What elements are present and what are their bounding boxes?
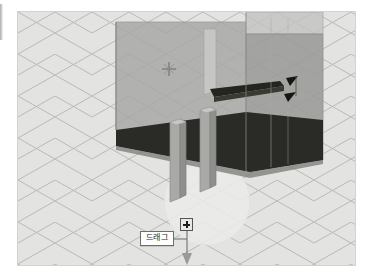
- model-top-right-block: [246, 12, 323, 34]
- page-edge-artifact: [0, 4, 3, 40]
- model-back-panel: [116, 22, 246, 130]
- model-vertical-fin: [204, 29, 216, 95]
- drag-callout: 드래그: [140, 231, 174, 246]
- model-leg-right-side: [210, 107, 216, 188]
- screenshot-root: 드래그: [0, 0, 373, 279]
- model-leg-left-side: [180, 119, 186, 198]
- push-pull-handle[interactable]: [180, 218, 193, 231]
- model-leg-left-front: [170, 119, 180, 202]
- plus-icon-vertical: [186, 221, 188, 228]
- model-leg-right-front: [200, 107, 210, 192]
- inference-point-crosshair: [162, 62, 176, 76]
